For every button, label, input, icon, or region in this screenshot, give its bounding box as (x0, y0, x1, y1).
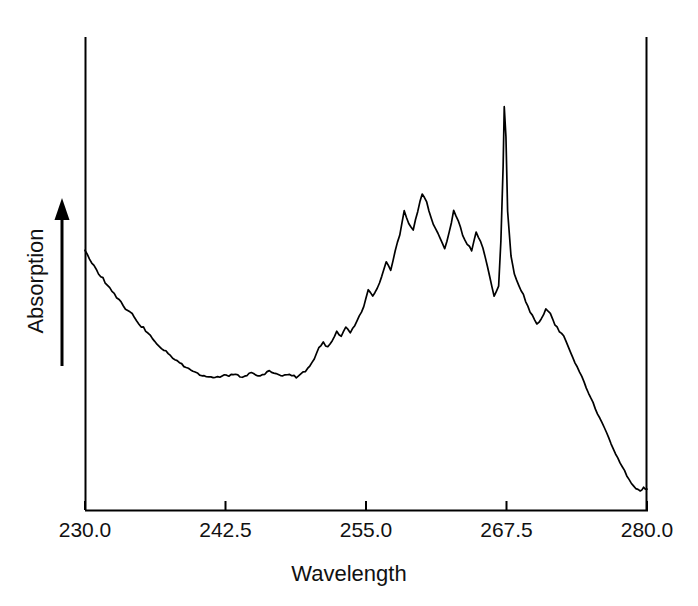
x-axis-ticks (85, 501, 647, 510)
x-tick-label: 242.5 (184, 518, 268, 542)
absorption-spectrum-figure: 230.0242.5255.0267.5280.0 Wavelength Abs… (0, 0, 698, 606)
y-axis-title: Absorption (23, 201, 49, 361)
x-tick-label: 280.0 (605, 518, 689, 542)
y-axis-arrow (55, 198, 70, 366)
axes-group (85, 37, 648, 511)
x-tick-label: 255.0 (324, 518, 408, 542)
x-tick-label: 230.0 (43, 518, 127, 542)
x-axis-title: Wavelength (0, 561, 698, 587)
x-tick-label: 267.5 (465, 518, 549, 542)
spectrum-plot-canvas (0, 0, 698, 606)
spectrum-curve (85, 107, 647, 491)
